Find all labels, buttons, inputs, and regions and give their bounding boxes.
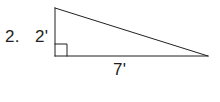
problem-number: 2. — [5, 28, 20, 45]
triangle-drawing — [0, 0, 220, 102]
hypotenuse-line — [55, 8, 208, 56]
vertical-leg-label: 2' — [35, 28, 48, 45]
base-label: 7' — [113, 61, 126, 78]
right-angle-marker-icon — [55, 44, 67, 56]
right-triangle-figure: 2. 2' 7' — [0, 0, 220, 102]
